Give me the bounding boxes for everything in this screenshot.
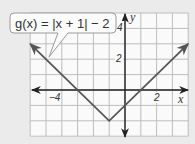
function-graph: −4 2 2 4 x y g(x) = |x + 1| − 2 bbox=[0, 0, 195, 144]
y-tick-4: 4 bbox=[117, 22, 123, 33]
y-axis-label: y bbox=[129, 10, 136, 24]
x-axis-label: x bbox=[177, 92, 184, 106]
function-label: g(x) = |x + 1| − 2 bbox=[15, 16, 110, 31]
x-tick-2: 2 bbox=[153, 92, 160, 103]
x-tick-neg4: −4 bbox=[49, 92, 61, 103]
y-tick-2: 2 bbox=[115, 53, 122, 64]
